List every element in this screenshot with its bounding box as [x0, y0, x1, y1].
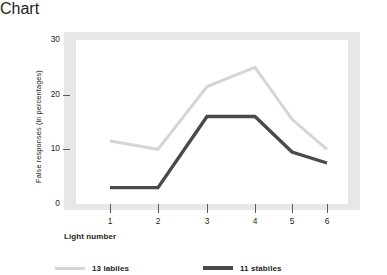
y-tick-label: 10 — [38, 143, 60, 153]
x-tick-label: 2 — [150, 216, 166, 226]
legend-swatch-stabiles — [203, 266, 233, 270]
chart-legend: 13 labiles 11 stabiles — [55, 261, 355, 275]
x-tick-mark — [255, 204, 256, 213]
x-tick-mark — [292, 204, 293, 213]
x-tick-label: 5 — [284, 216, 300, 226]
x-axis-title: Light number — [64, 232, 116, 241]
plot-area — [76, 40, 348, 204]
legend-label-labiles: 13 labiles — [92, 264, 129, 273]
x-tick-label: 6 — [319, 216, 335, 226]
legend-label-stabiles: 11 stabiles — [240, 264, 282, 273]
chart-figure: False responses (in percentages) 0102030… — [0, 18, 387, 275]
x-tick-label: 3 — [199, 216, 215, 226]
y-tick-mark — [63, 149, 70, 150]
x-tick-mark — [327, 204, 328, 213]
y-axis-title: False responses (in percentages) — [34, 42, 43, 212]
x-tick-label: 1 — [102, 216, 118, 226]
y-tick-mark — [63, 95, 70, 96]
legend-item-stabiles: 11 stabiles — [203, 261, 282, 275]
x-tick-label: 4 — [247, 216, 263, 226]
x-tick-mark — [110, 204, 111, 213]
legend-item-labiles: 13 labiles — [55, 261, 129, 275]
x-tick-mark — [207, 204, 208, 213]
y-tick-label: 30 — [38, 34, 60, 44]
legend-swatch-labiles — [55, 267, 85, 270]
x-tick-mark — [158, 204, 159, 213]
y-tick-label: 20 — [38, 89, 60, 99]
y-tick-label: 0 — [38, 198, 60, 208]
